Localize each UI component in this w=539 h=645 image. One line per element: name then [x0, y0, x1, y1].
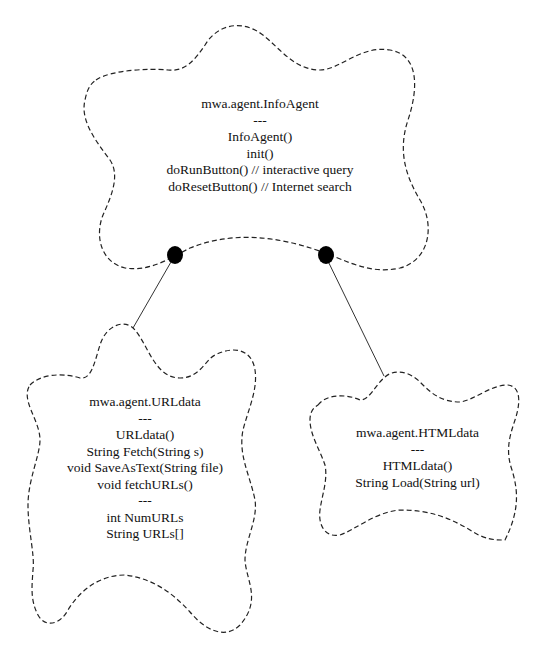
aggregation-bullet-left: [167, 246, 183, 264]
method: void fetchURLs(): [40, 477, 250, 494]
connector-infoagent-htmldata: [325, 255, 384, 376]
class-infoagent: mwa.agent.InfoAgent --- InfoAgent() init…: [150, 96, 370, 195]
class-htmldata: mwa.agent.HTMLdata --- HTMLdata() String…: [335, 425, 500, 491]
class-urldata: mwa.agent.URLdata --- URLdata() String F…: [40, 394, 250, 543]
class-name: mwa.agent.HTMLdata: [335, 425, 500, 442]
method: HTMLdata(): [335, 458, 500, 475]
class-name: mwa.agent.InfoAgent: [150, 96, 370, 113]
method: void SaveAsText(String file): [40, 460, 250, 477]
diagram-canvas: mwa.agent.InfoAgent --- InfoAgent() init…: [0, 0, 539, 645]
separator: ---: [40, 411, 250, 428]
method: doResetButton() // Internet search: [150, 179, 370, 196]
aggregation-bullet-right: [318, 246, 334, 264]
connector-infoagent-urldata: [133, 255, 175, 328]
method: init(): [150, 146, 370, 163]
method: URLdata(): [40, 427, 250, 444]
method: InfoAgent(): [150, 129, 370, 146]
method: String Fetch(String s): [40, 444, 250, 461]
method: doRunButton() // interactive query: [150, 162, 370, 179]
class-name: mwa.agent.URLdata: [40, 394, 250, 411]
separator: ---: [335, 442, 500, 459]
separator: ---: [40, 493, 250, 510]
attribute: String URLs[]: [40, 526, 250, 543]
method: String Load(String url): [335, 475, 500, 492]
separator: ---: [150, 113, 370, 130]
attribute: int NumURLs: [40, 510, 250, 527]
